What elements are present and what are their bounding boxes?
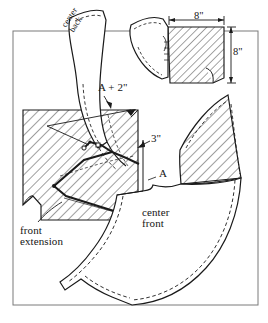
diagram-canvas <box>0 0 268 323</box>
leader-a-plus-2 <box>104 96 112 109</box>
label-front-extension-line2: extension <box>20 236 63 247</box>
label-front-extension: front extension <box>20 225 63 247</box>
label-a: A <box>159 168 167 179</box>
caption-partial <box>13 313 133 322</box>
label-center-front: center front <box>142 207 169 229</box>
label-8-inches-horizontal: 8" <box>194 11 204 22</box>
label-8-inches-vertical: 8" <box>233 47 243 58</box>
label-center-front-line2: front <box>142 218 169 229</box>
label-3-inches: 3" <box>151 133 161 144</box>
top-small-flounce <box>130 18 169 79</box>
pattern-layout-diagram: center back A + 2" 3" A center front fro… <box>0 0 268 323</box>
label-a-plus-2: A + 2" <box>98 82 128 93</box>
right-hatched-wedge <box>172 88 252 192</box>
